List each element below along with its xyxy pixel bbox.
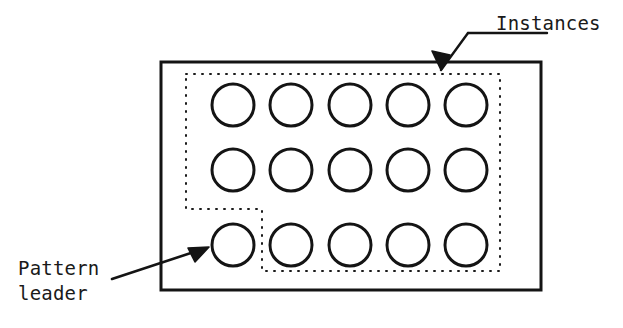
instances-label: Instances xyxy=(496,11,601,36)
circle-row-2 xyxy=(212,149,487,191)
instance-circle xyxy=(270,84,312,126)
pattern-leader-label-line2: leader xyxy=(18,282,88,304)
instance-circle xyxy=(270,224,312,266)
instance-circle xyxy=(212,149,254,191)
pattern-leader-circle xyxy=(212,224,254,266)
instance-circle xyxy=(445,149,487,191)
instance-circle xyxy=(329,149,371,191)
instances-callout-leader xyxy=(432,33,547,70)
instance-circle xyxy=(212,84,254,126)
pattern-leader-label-line1: Pattern xyxy=(18,257,99,279)
instance-circle xyxy=(270,149,312,191)
instance-circle xyxy=(387,84,429,126)
instance-circle xyxy=(445,224,487,266)
circle-row-1 xyxy=(212,84,487,126)
instance-circle xyxy=(329,224,371,266)
pattern-leader-arrowhead xyxy=(188,247,209,262)
instance-circle xyxy=(387,149,429,191)
instance-circle xyxy=(387,224,429,266)
circle-row-3 xyxy=(212,224,487,266)
pattern-leader-label: Patternleader xyxy=(18,256,99,306)
diagram-canvas: Instances Patternleader xyxy=(0,0,623,328)
instance-circle xyxy=(445,84,487,126)
instance-circle xyxy=(329,84,371,126)
